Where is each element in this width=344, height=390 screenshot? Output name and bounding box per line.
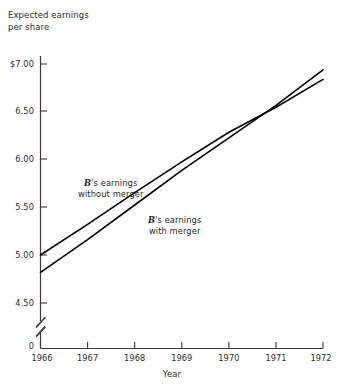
y-tick-label-6-00: 6.00 bbox=[0, 154, 34, 164]
x-tick-label-1971: 1971 bbox=[265, 353, 286, 363]
x-tick-label-1972: 1972 bbox=[310, 353, 331, 363]
x-tick-label-1966: 1966 bbox=[31, 353, 52, 363]
x-axis-title: Year bbox=[0, 369, 344, 381]
x-tick-label-1968: 1968 bbox=[124, 353, 145, 363]
y-axis-ticks bbox=[41, 64, 48, 303]
x-tick-label-1970: 1970 bbox=[218, 353, 239, 363]
x-axis-ticks bbox=[41, 342, 324, 349]
chart-figure: Expected earnings per share bbox=[0, 0, 344, 390]
series-annotation-with-merger-text: 's earnings with merger bbox=[149, 215, 201, 236]
plot-canvas bbox=[0, 0, 344, 390]
series-annotation-with-merger: B's earnings with merger bbox=[148, 204, 201, 238]
x-tick-label-1967: 1967 bbox=[77, 353, 98, 363]
y-tick-label-5-00: 5.00 bbox=[0, 250, 34, 260]
origin-label: 0 bbox=[0, 341, 34, 351]
series-annotation-without-merger: B's earnings without merger bbox=[78, 167, 143, 201]
y-tick-label-4-50: 4.50 bbox=[0, 298, 34, 308]
y-tick-label-7-00: $7.00 bbox=[0, 59, 34, 69]
y-tick-label-6-50: 6.50 bbox=[0, 106, 34, 116]
y-tick-label-5-50: 5.50 bbox=[0, 202, 34, 212]
x-tick-label-1969: 1969 bbox=[171, 353, 192, 363]
